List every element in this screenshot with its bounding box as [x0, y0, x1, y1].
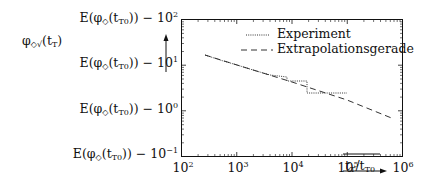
x-tick-label-1e2: 102: [173, 160, 194, 175]
x-axis-arrow: [0, 0, 428, 182]
y-axis-label: φ◇√(tT): [22, 33, 62, 49]
legend-label-extrapolation: Extrapolationsgerade: [277, 41, 414, 56]
y-tick-label-1: E(φ◇(tT0)) − 100: [80, 101, 178, 117]
x-axis-label: tT/tT0: [345, 158, 375, 174]
y-tick-label-10: E(φ◇(tT0)) − 101: [80, 55, 178, 71]
y-tick-label-100: E(φ◇(tT0)) − 102: [80, 10, 178, 26]
x-tick-label-1e4: 104: [283, 160, 304, 175]
y-tick-label-0.1: E(φ◇(tT0)) − 10−1: [73, 146, 178, 162]
legend-label-experiment: Experiment: [277, 26, 351, 41]
x-tick-label-1e3: 103: [228, 160, 249, 175]
x-tick-label-1e6: 106: [393, 160, 414, 175]
